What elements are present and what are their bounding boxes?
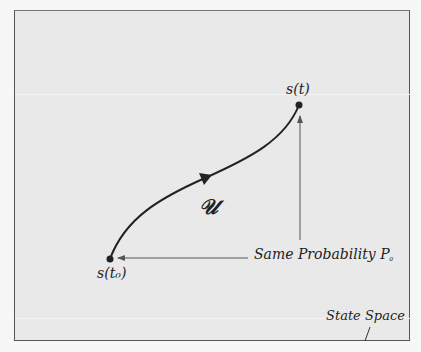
- trajectory-label: 𝒰: [199, 196, 218, 217]
- same-probability-label: Same Probability P₀: [254, 247, 393, 263]
- state-space-label-stroke: [365, 327, 370, 341]
- state-space-label: State Space: [326, 309, 405, 322]
- start-state-label: s(t₀): [97, 266, 126, 280]
- start-state-dot: [107, 256, 114, 263]
- same-probability-text: Same Probability P: [254, 246, 390, 262]
- diagram-canvas: [0, 0, 421, 352]
- end-state-dot: [296, 102, 303, 109]
- probability-subscript: ₀: [390, 253, 394, 263]
- end-state-label: s(t): [286, 82, 310, 96]
